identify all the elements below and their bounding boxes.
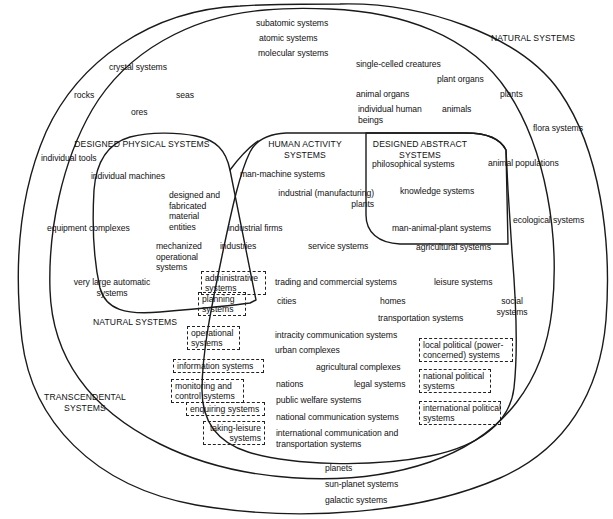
label-single-celled-creatures: single-celled creatures [356, 59, 441, 70]
label-mechanized-operational-systems: mechanized operational systems [156, 241, 202, 273]
label-transportation-systems: transportation systems [378, 313, 463, 324]
label-individual-human-beings: individual human beings [358, 104, 422, 125]
boxed-label-national-political-systems: national political systems [419, 369, 491, 393]
label-animals: animals [442, 104, 471, 115]
label-man-machine-systems: man-machine systems [240, 169, 325, 180]
label-social-systems: social systems [496, 296, 527, 317]
label-atomic-systems: atomic systems [259, 33, 318, 44]
label-subatomic-systems: subatomic systems [256, 18, 328, 29]
boxed-label-planning-systems: planning systems [198, 292, 246, 316]
label-molecular-systems: molecular systems [258, 48, 328, 59]
zone-label-designed-abstract-systems: DESIGNED ABSTRACT SYSTEMS [373, 139, 467, 160]
boxed-label-local-political-power-concerned-systems: local political (power- concerned) syste… [419, 338, 513, 362]
label-equipment-complexes: equipment complexes [47, 223, 130, 234]
label-flora-systems: flora systems [533, 123, 583, 134]
label-industrial-manufacturing-plants: industrial (manufacturing) plants [278, 188, 374, 209]
zone-label-transcendental-systems: TRANSCENDENTAL SYSTEMS [44, 392, 126, 413]
boxed-label-international-political-systems: international political systems [419, 401, 501, 425]
diagram-canvas: NATURAL SYSTEMS NATURAL SYSTEMS TRANSCEN… [0, 0, 613, 519]
label-designed-and-fabricated-material-entities: designed and fabricated material entitie… [169, 190, 220, 232]
label-homes: homes [380, 296, 406, 307]
boxed-label-enquiring-systems: enquiring systems [186, 402, 265, 416]
label-intracity-communication-systems: intracity communication systems [275, 330, 397, 341]
label-plant-organs: plant organs [437, 74, 484, 85]
label-seas: seas [176, 90, 194, 101]
boxed-label-monitoring-and-control-systems: monitoring and control systems [171, 379, 244, 403]
label-crystal-systems: crystal systems [109, 62, 167, 73]
label-individual-machines: individual machines [91, 171, 165, 182]
label-rocks: rocks [74, 90, 94, 101]
boxed-label-taking-leisure-systems: taking-leisure systems [203, 421, 265, 445]
label-national-communication-systems: national communication systems [276, 412, 399, 423]
label-legal-systems: legal systems [354, 379, 405, 390]
zone-label-designed-physical-systems: DESIGNED PHYSICAL SYSTEMS [74, 139, 209, 150]
boxed-label-operational-systems: operational systems [187, 326, 240, 350]
label-nations: nations [276, 379, 303, 390]
label-trading-and-commercial-systems: trading and commercial systems [275, 277, 397, 288]
label-agricultural-systems: agricultural systems [416, 242, 491, 253]
label-urban-complexes: urban complexes [275, 345, 340, 356]
zone-label-natural-systems-top: NATURAL SYSTEMS [491, 33, 575, 44]
label-planets: planets [325, 463, 352, 474]
label-industries: industries [220, 241, 256, 252]
label-international-communication-and-transportation-systems: international communication and transpor… [276, 428, 398, 449]
label-sun-planet-systems: sun-planet systems [325, 479, 398, 490]
boxed-label-information-systems: information systems [173, 359, 264, 373]
zone-label-natural-systems-left: NATURAL SYSTEMS [93, 317, 177, 328]
label-cities: cities [277, 296, 296, 307]
zone-label-human-activity-systems: HUMAN ACTIVITY SYSTEMS [268, 139, 342, 160]
label-agricultural-complexes: agricultural complexes [316, 362, 400, 373]
label-galactic-systems: galactic systems [325, 495, 387, 506]
label-service-systems: service systems [308, 241, 368, 252]
label-man-animal-plant-systems: man-animal-plant systems [392, 223, 491, 234]
label-individual-tools: individual tools [41, 153, 97, 164]
label-animal-populations: animal populations [488, 158, 559, 169]
label-leisure-systems: leisure systems [434, 277, 492, 288]
label-very-large-automatic-systems: very large automatic systems [74, 277, 150, 298]
label-industrial-firms: industrial firms [228, 223, 283, 234]
label-knowledge-systems: knowledge systems [400, 186, 474, 197]
label-ecological-systems: ecological systems [513, 215, 584, 226]
label-ores: ores [131, 107, 148, 118]
label-philosophical-systems: philosophical systems [372, 159, 455, 170]
label-public-welfare-systems: public welfare systems [276, 395, 361, 406]
label-animal-organs: animal organs [356, 89, 409, 100]
label-plants: plants [500, 89, 523, 100]
